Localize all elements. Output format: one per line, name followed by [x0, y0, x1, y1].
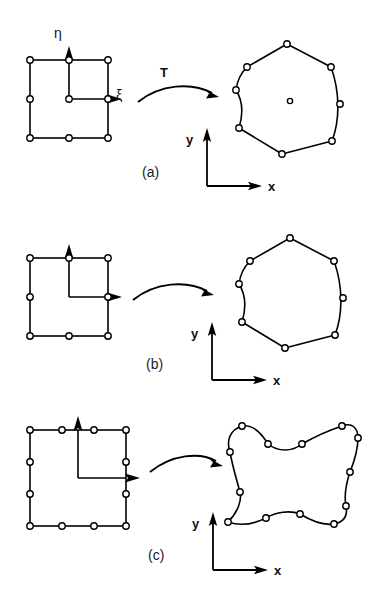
transformation-arrowhead-a: [205, 89, 219, 99]
node: [105, 255, 111, 261]
node: [27, 333, 33, 339]
row-c-parent-element: [27, 416, 140, 529]
transformation-arrow-c: [150, 456, 216, 472]
node: [339, 423, 345, 429]
node: [66, 333, 72, 339]
node: [265, 441, 271, 447]
node: [225, 519, 231, 525]
node: [236, 281, 242, 287]
row-a-parent-element: [27, 46, 122, 141]
node: [328, 64, 334, 70]
node: [236, 125, 242, 131]
node: [284, 41, 290, 47]
node: [233, 87, 239, 93]
node: [343, 503, 349, 509]
y-axis-label-a: y: [186, 133, 193, 146]
node: [247, 258, 253, 264]
node: [59, 427, 65, 433]
node: [123, 459, 129, 465]
physical-element-outline-c: [228, 425, 358, 525]
x-axis-label-c: x: [274, 564, 281, 577]
node: [66, 57, 72, 63]
node: [66, 255, 72, 261]
node: [332, 332, 338, 338]
row-b-map-arrow: [133, 284, 214, 300]
node: [105, 294, 111, 300]
node: [239, 319, 245, 325]
node: [27, 294, 33, 300]
row-c-map-arrow: [150, 456, 223, 472]
node: [105, 57, 111, 63]
xi-axis-label-a: ξ: [116, 88, 122, 102]
node: [244, 64, 250, 70]
y-axis-label-c: y: [192, 517, 199, 530]
node: [27, 459, 33, 465]
node: [27, 491, 33, 497]
node: [91, 427, 97, 433]
transformation-arrowhead-c: [209, 458, 223, 468]
node: [27, 427, 33, 433]
eta-axis-label-a: η: [54, 26, 62, 40]
node: [123, 491, 129, 497]
panel-caption-b: (b): [146, 357, 163, 371]
node: [282, 345, 288, 351]
center-node: [287, 98, 292, 103]
node: [299, 441, 305, 447]
node: [91, 523, 97, 529]
transformation-arrow-b: [133, 284, 207, 300]
node: [105, 333, 111, 339]
node: [287, 235, 293, 241]
node: [27, 135, 33, 141]
node: [237, 489, 243, 495]
row-a-map-arrow: [138, 86, 219, 102]
physical-element-outline-b: [239, 238, 341, 348]
node: [123, 523, 129, 529]
node: [329, 138, 335, 144]
node: [331, 521, 337, 527]
node: [297, 511, 303, 517]
panel-caption-c: (c): [148, 548, 164, 562]
node: [337, 101, 343, 107]
node: [105, 96, 111, 102]
node: [27, 255, 33, 261]
figure-canvas: [0, 0, 386, 590]
node: [340, 295, 346, 301]
transformation-arrowhead-b: [200, 287, 214, 297]
node: [279, 151, 285, 157]
node: [66, 96, 72, 102]
xi-arrowhead-c: [125, 474, 140, 483]
node: [105, 135, 111, 141]
node: [27, 57, 33, 63]
node: [227, 449, 233, 455]
node: [331, 258, 337, 264]
physical-element-outline-a: [236, 44, 338, 154]
row-b-physical-element: [236, 235, 346, 351]
node: [123, 427, 129, 433]
row-b-parent-element: [27, 244, 122, 339]
node: [263, 515, 269, 521]
node: [66, 135, 72, 141]
transformation-arrow-a: [138, 86, 212, 102]
row-c-physical-element: [225, 423, 361, 527]
panel-caption-a: (a): [142, 165, 159, 179]
y-axis-label-b: y: [191, 327, 198, 340]
node: [347, 469, 353, 475]
eta-arrowhead-c: [74, 416, 83, 431]
node: [59, 523, 65, 529]
node: [355, 435, 361, 441]
x-axis-label-b: x: [273, 374, 280, 387]
physical-nodes-b: [236, 235, 346, 351]
physical-nodes-a: [233, 41, 343, 157]
node: [27, 523, 33, 529]
node: [27, 96, 33, 102]
x-axis-label-a: x: [268, 180, 275, 193]
node: [239, 423, 245, 429]
isoparametric-mapping-figure: η ξ T y x (a) y x (b) y x (c): [0, 0, 386, 590]
row-a-physical-element: [233, 41, 343, 157]
transformation-label-a: T: [160, 66, 168, 79]
